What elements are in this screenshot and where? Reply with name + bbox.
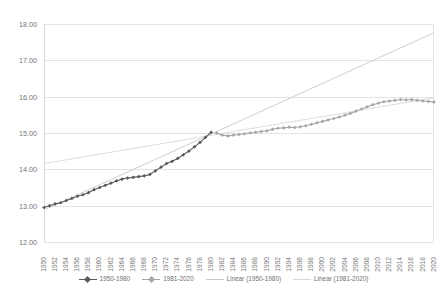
series-line <box>217 100 434 136</box>
series-marker <box>315 121 319 125</box>
series-marker <box>304 124 308 128</box>
series-marker <box>310 122 314 126</box>
series-marker <box>120 177 124 181</box>
series-marker <box>326 118 330 122</box>
y-axis-tick-label: 13.00 <box>19 201 37 210</box>
legend-swatch-icon <box>142 276 160 283</box>
legend-item[interactable]: Linear (1981-2020) <box>293 276 368 283</box>
series-marker <box>232 133 236 137</box>
legend-label: Linear (1950-1980) <box>227 276 281 282</box>
x-axis-labels: 1950195219541956195819601962196419661968… <box>44 244 434 274</box>
series-marker <box>226 134 230 138</box>
legend-item[interactable]: 1950-1980 <box>79 276 131 283</box>
series-marker <box>265 129 269 133</box>
legend-item[interactable]: Linear (1950-1980) <box>206 276 281 283</box>
series-marker <box>81 193 85 197</box>
series-marker <box>365 105 369 109</box>
series-marker <box>415 98 419 102</box>
legend-swatch-icon <box>293 276 311 283</box>
legend-item[interactable]: 1981-2020 <box>142 276 194 283</box>
series-marker <box>98 186 102 190</box>
series-marker <box>298 125 302 129</box>
series-marker <box>103 183 107 187</box>
y-gridline <box>45 242 433 243</box>
series-marker <box>254 130 258 134</box>
series-marker <box>42 206 46 210</box>
trendline <box>44 33 434 210</box>
y-axis-tick-label: 16.00 <box>19 92 37 101</box>
series-marker <box>371 103 375 107</box>
legend-swatch-icon <box>79 276 97 283</box>
legend-label: Linear (1981-2020) <box>314 276 368 282</box>
series-marker <box>376 101 380 105</box>
series-marker <box>109 181 113 185</box>
series-marker <box>382 100 386 104</box>
series-marker <box>332 117 336 121</box>
series-marker <box>259 130 263 134</box>
series-marker <box>432 100 436 104</box>
legend-label: 1981-2020 <box>163 276 194 282</box>
series-marker <box>137 175 141 179</box>
chart-legend: 1950-19801981-2020Linear (1950-1980)Line… <box>0 276 447 283</box>
series-marker <box>282 126 286 130</box>
series-marker <box>388 99 392 103</box>
chart-container: 18.0017.0016.0015.0014.0013.0012.00 1950… <box>0 0 447 299</box>
y-axis-tick-label: 17.00 <box>19 56 37 65</box>
y-axis-tick-label: 15.00 <box>19 129 37 138</box>
series-marker <box>248 131 252 135</box>
chart-plot-svg <box>44 24 434 242</box>
series-marker <box>343 113 347 117</box>
series-marker <box>271 128 275 132</box>
y-axis-tick-label: 12.00 <box>19 238 37 247</box>
series-marker <box>115 179 119 183</box>
series-marker <box>399 98 403 102</box>
legend-swatch-icon <box>206 276 224 283</box>
series-marker <box>321 120 325 124</box>
series-marker <box>427 100 431 104</box>
legend-label: 1950-1980 <box>100 276 131 282</box>
series-marker <box>337 115 341 119</box>
trendline <box>44 98 434 164</box>
series-marker <box>393 98 397 102</box>
series-marker <box>243 132 247 136</box>
series-marker <box>354 109 358 113</box>
y-axis-tick-label: 14.00 <box>19 165 37 174</box>
series-marker <box>287 125 291 129</box>
series-marker <box>293 126 297 130</box>
series-marker <box>237 133 241 137</box>
series-marker <box>126 176 130 180</box>
series-line <box>44 132 211 207</box>
series-marker <box>404 98 408 102</box>
series-marker <box>142 174 146 178</box>
y-axis-labels: 18.0017.0016.0015.0014.0013.0012.00 <box>0 24 40 242</box>
series-marker <box>276 126 280 130</box>
series-marker <box>131 175 135 179</box>
y-axis-tick-label: 18.00 <box>19 20 37 29</box>
